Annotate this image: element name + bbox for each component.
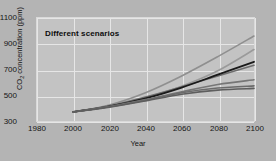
y-axis-label-subscript: 2 (18, 76, 24, 79)
x-tick-2100: 2100 (235, 125, 275, 133)
chart-screenshot: CO2 concentration (ppm) 1100 900 700 500… (0, 0, 276, 161)
x-tick-1980: 1980 (17, 125, 57, 133)
x-tick-2040: 2040 (126, 125, 166, 133)
y-tick-500: 500 (0, 92, 17, 100)
series-lines (37, 18, 254, 121)
line-scenario-a2 (73, 50, 254, 112)
y-axis-label-text: CO (15, 79, 24, 90)
plot-area: Different scenarios (36, 17, 255, 122)
x-tick-2000: 2000 (53, 125, 93, 133)
x-tick-2080: 2080 (199, 125, 239, 133)
gridline-x-2100 (255, 18, 256, 121)
y-tick-1100: 1100 (0, 14, 17, 22)
x-axis-label: Year (0, 139, 276, 148)
x-tick-2020: 2020 (90, 125, 130, 133)
y-tick-700: 700 (0, 66, 17, 74)
gridline-y-300 (37, 122, 254, 123)
y-tick-300: 300 (0, 118, 17, 126)
x-tick-2060: 2060 (162, 125, 202, 133)
y-tick-900: 900 (0, 40, 17, 48)
